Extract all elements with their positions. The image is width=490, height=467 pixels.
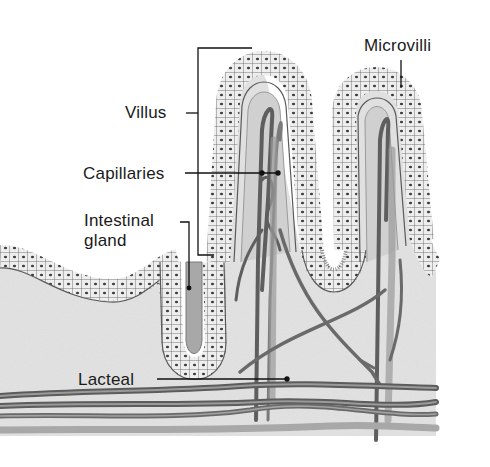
label-intestinal-gland-line2: gland [84, 231, 127, 250]
intestinal-gland [160, 262, 226, 380]
label-lacteal: Lacteal [78, 370, 134, 389]
label-capillaries: Capillaries [83, 164, 165, 183]
villus-illustration [0, 0, 490, 467]
label-villus: Villus [125, 103, 167, 122]
villus-diagram: Villus Capillaries Intestinal gland Lact… [0, 0, 490, 467]
label-microvilli: Microvilli [364, 36, 431, 55]
label-intestinal-gland-line1: Intestinal [84, 211, 154, 230]
